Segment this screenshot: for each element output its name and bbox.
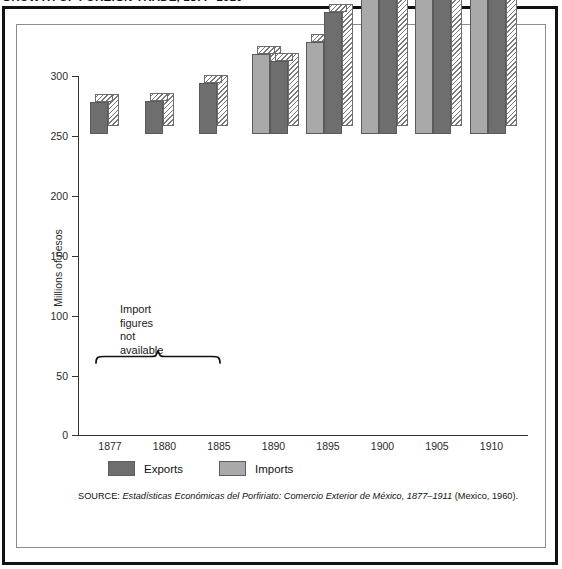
x-label-1880: 1880 xyxy=(137,440,193,452)
bar-imports-1895[interactable] xyxy=(306,42,324,134)
y-tick-150 xyxy=(72,256,78,257)
bar-exports-1880[interactable] xyxy=(145,101,163,135)
bar-front-face xyxy=(270,61,288,134)
bar-front-face xyxy=(361,0,379,134)
bar-side-face xyxy=(451,0,462,126)
y-tick-200 xyxy=(72,196,78,197)
bar-top-face xyxy=(95,94,113,102)
import-note-line-3: not xyxy=(120,330,163,344)
import-note-line-2: figures xyxy=(120,317,163,331)
bar-exports-1900[interactable] xyxy=(379,0,397,134)
x-label-1910: 1910 xyxy=(464,440,520,452)
x-axis-line xyxy=(78,435,528,436)
bar-front-face xyxy=(199,83,217,134)
x-label-1890: 1890 xyxy=(246,440,302,452)
bar-front-face xyxy=(90,102,108,134)
x-label-1885: 1885 xyxy=(191,440,247,452)
bar-side-face xyxy=(288,53,299,126)
bar-front-face xyxy=(324,12,342,134)
y-tick-label-0: 0 xyxy=(34,429,68,441)
legend-item-imports[interactable]: Imports xyxy=(219,461,293,476)
y-tick-50 xyxy=(72,376,78,377)
y-axis-line xyxy=(78,76,79,436)
source-note: SOURCE: Estadísticas Económicas del Porf… xyxy=(78,491,518,501)
bar-imports-1905[interactable] xyxy=(415,0,433,134)
y-tick-0 xyxy=(72,435,78,436)
y-tick-label-300: 300 xyxy=(34,70,68,82)
bar-exports-1905[interactable] xyxy=(433,0,451,134)
bar-side-face xyxy=(506,0,517,126)
bar-exports-1885[interactable] xyxy=(199,83,217,134)
bar-front-face xyxy=(470,0,488,134)
legend-swatch-imports xyxy=(219,461,246,476)
legend-label-imports: Imports xyxy=(255,463,293,475)
x-label-1877: 1877 xyxy=(82,440,138,452)
figure-title: GROWTH OF FOREIGN TRADE, 1877–1910 xyxy=(2,0,243,3)
y-tick-label-150: 150 xyxy=(34,250,68,262)
bar-side-face xyxy=(342,4,353,126)
bar-front-face xyxy=(433,0,451,134)
bar-imports-1910[interactable] xyxy=(470,0,488,134)
y-tick-label-50: 50 xyxy=(34,370,68,382)
source-title: Estadísticas Económicas del Porfiriato: … xyxy=(122,491,452,501)
bar-top-face xyxy=(150,93,168,101)
bar-top-face xyxy=(275,53,293,61)
x-label-1905: 1905 xyxy=(409,440,465,452)
legend-label-exports: Exports xyxy=(144,463,183,475)
import-note-line-1: Import xyxy=(120,303,163,317)
x-label-1900: 1900 xyxy=(355,440,411,452)
bar-exports-1910[interactable] xyxy=(488,0,506,134)
y-tick-label-100: 100 xyxy=(34,310,68,322)
y-tick-label-200: 200 xyxy=(34,190,68,202)
legend-item-exports[interactable]: Exports xyxy=(108,461,183,476)
bar-exports-1877[interactable] xyxy=(90,102,108,134)
bar-top-face xyxy=(329,4,347,12)
bar-exports-1890[interactable] xyxy=(270,61,288,134)
bar-imports-1890[interactable] xyxy=(252,54,270,134)
bar-front-face xyxy=(488,0,506,134)
bar-front-face xyxy=(252,54,270,134)
x-label-1895: 1895 xyxy=(300,440,356,452)
curly-brace-icon xyxy=(95,350,221,364)
legend-swatch-exports xyxy=(108,461,135,476)
bar-side-face xyxy=(397,0,408,126)
y-tick-label-250: 250 xyxy=(34,130,68,142)
y-tick-300 xyxy=(72,76,78,77)
bar-front-face xyxy=(415,0,433,134)
y-tick-100 xyxy=(72,316,78,317)
bar-top-face xyxy=(257,46,275,54)
bar-top-face xyxy=(204,75,222,83)
chart-legend: Exports Imports xyxy=(108,461,293,476)
bar-imports-1900[interactable] xyxy=(361,0,379,134)
import-note: Import figures not available xyxy=(120,303,163,357)
source-suffix: (Mexico, 1960). xyxy=(452,491,518,501)
bar-exports-1895[interactable] xyxy=(324,12,342,134)
bar-front-face xyxy=(306,42,324,134)
source-label: SOURCE: xyxy=(78,491,122,501)
bar-front-face xyxy=(145,101,163,135)
y-tick-250 xyxy=(72,136,78,137)
bar-front-face xyxy=(379,0,397,134)
